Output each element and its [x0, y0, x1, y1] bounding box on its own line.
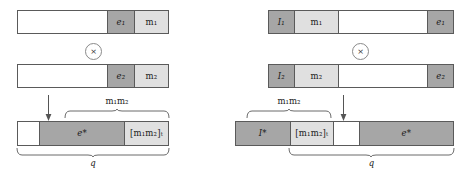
- right-operand-1-bar: I₁ m₁ e₁: [268, 10, 454, 34]
- left-operand-2-mantissa-label: m₂: [146, 72, 158, 81]
- right-result-index-label: I*: [259, 129, 267, 138]
- right-operand-2-index-segment: I₂: [269, 65, 294, 87]
- right-operand-1-index-label: I₁: [278, 18, 285, 27]
- right-result-arrow-icon: [339, 95, 348, 121]
- right-operand-2-mantissa-label: m₂: [311, 72, 323, 81]
- left-result-mantissa-label: [m₁m₂]ₜ: [130, 129, 163, 138]
- right-top-brace: [246, 109, 332, 118]
- right-operand-2-exponent-label: e₂: [436, 72, 445, 81]
- left-operand-1-empty-segment: [18, 11, 107, 33]
- right-result-mantissa-label: [m₁m₂]ₜ: [295, 129, 328, 138]
- left-operand-1-exponent-label: e₁: [117, 18, 126, 27]
- left-operand-2-exponent-segment: e₂: [107, 65, 134, 87]
- left-result-bar: e* [m₁m₂]ₜ: [17, 121, 169, 146]
- left-result-exponent-segment: e*: [39, 122, 124, 145]
- right-result-mantissa-segment: [m₁m₂]ₜ: [290, 122, 334, 145]
- left-result-exponent-label: e*: [77, 129, 87, 138]
- left-multiply-operator-icon: ×: [85, 43, 102, 60]
- left-operand-2-exponent-label: e₂: [117, 72, 126, 81]
- left-result-arrow-icon: [44, 95, 53, 121]
- right-result-exponent-label: e*: [402, 129, 412, 138]
- right-result-empty-segment: [333, 122, 359, 145]
- right-operand-2-bar: I₂ m₂ e₂: [268, 64, 454, 88]
- left-operand-2-mantissa-segment: m₂: [134, 65, 168, 87]
- right-operand-1-mantissa-label: m₁: [311, 18, 323, 27]
- right-operand-1-exponent-segment: e₁: [427, 11, 453, 33]
- left-bottom-brace: [16, 148, 170, 157]
- left-diagram-panel: e₁ m₁ × e₂ m₂ m₁m₂ e* [m₁m₂]ₜ: [0, 0, 234, 189]
- left-bottom-brace-label: q: [16, 158, 170, 168]
- right-operand-2-exponent-segment: e₂: [427, 65, 453, 87]
- right-bottom-brace-label: q: [288, 158, 455, 168]
- right-bottom-brace: [288, 148, 455, 157]
- left-operand-1-mantissa-label: m₁: [146, 18, 158, 27]
- right-operand-1-mantissa-segment: m₁: [294, 11, 339, 33]
- right-operand-1-empty-segment: [338, 11, 427, 33]
- right-diagram-panel: I₁ m₁ e₁ × I₂ m₂ e₂ m₁m₂: [234, 0, 468, 189]
- right-result-bar: I* [m₁m₂]ₜ e*: [235, 121, 454, 146]
- left-top-brace-text: m₁m₂: [106, 96, 129, 106]
- left-operand-1-exponent-segment: e₁: [107, 11, 134, 33]
- right-multiply-symbol: ×: [357, 47, 364, 56]
- right-bottom-brace-text: q: [369, 158, 374, 168]
- left-multiply-symbol: ×: [90, 47, 97, 56]
- right-top-brace-text: m₁m₂: [278, 96, 301, 106]
- left-top-brace: [64, 109, 170, 118]
- left-bottom-brace-text: q: [90, 158, 95, 168]
- right-operand-1-exponent-label: e₁: [436, 18, 445, 27]
- left-operand-2-empty-segment: [18, 65, 107, 87]
- right-multiply-operator-icon: ×: [352, 43, 369, 60]
- right-top-brace-label: m₁m₂: [246, 96, 332, 106]
- left-top-brace-label: m₁m₂: [64, 96, 170, 106]
- left-operand-2-bar: e₂ m₂: [17, 64, 169, 88]
- right-operand-2-index-label: I₂: [278, 72, 285, 81]
- left-operand-1-bar: e₁ m₁: [17, 10, 169, 34]
- right-operand-2-empty-segment: [338, 65, 427, 87]
- left-result-empty-segment: [18, 122, 39, 145]
- right-result-index-segment: I*: [236, 122, 290, 145]
- right-operand-2-mantissa-segment: m₂: [294, 65, 339, 87]
- right-result-exponent-segment: e*: [359, 122, 453, 145]
- right-operand-1-index-segment: I₁: [269, 11, 294, 33]
- left-result-mantissa-segment: [m₁m₂]ₜ: [124, 122, 168, 145]
- left-operand-1-mantissa-segment: m₁: [134, 11, 168, 33]
